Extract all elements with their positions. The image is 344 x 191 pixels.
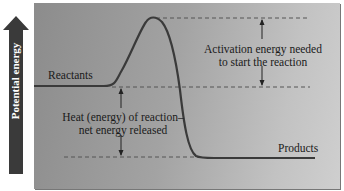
activation-energy-annotation: Activation energy needed to start the re…: [202, 43, 324, 69]
heat-of-reaction-line2: net energy released: [60, 124, 186, 137]
activation-energy-line2: to start the reaction: [202, 56, 324, 69]
energy-curve-layer: [0, 0, 344, 191]
activation-energy-line1: Activation energy needed: [202, 43, 324, 56]
arrow-up-icon: [260, 19, 265, 25]
reactants-label: Reactants: [48, 69, 93, 82]
arrow-down-icon: [119, 150, 124, 156]
heat-of-reaction-annotation: Heat (energy) of reaction– net energy re…: [60, 111, 186, 137]
heat-of-reaction-line1: Heat (energy) of reaction–: [60, 111, 186, 124]
products-label: Products: [278, 142, 318, 155]
arrow-down-icon: [260, 80, 265, 86]
arrow-up-icon: [119, 88, 124, 94]
